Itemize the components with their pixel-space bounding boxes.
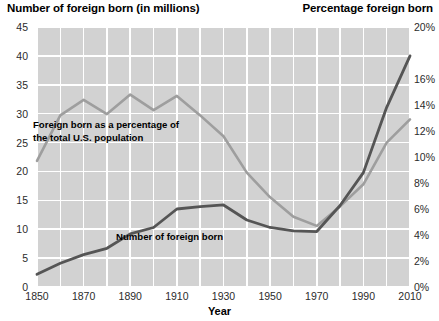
left-axis-tick-label: 25 [0,138,28,149]
number-series-line [37,56,410,274]
right-axis-tick-label: 16% [414,74,439,85]
foreign-born-chart: Number of foreign born (in millions) Per… [0,0,439,321]
right-axis-title: Percentage foreign born [302,2,433,14]
left-axis-tick-label: 15 [0,195,28,206]
x-axis-tick-label: 1930 [204,291,244,302]
x-axis-tick-label: 1950 [250,291,290,302]
right-axis-tick-label: 14% [414,100,439,111]
x-axis-tick-label: 2010 [390,291,430,302]
left-axis-tick-label: 40 [0,51,28,62]
right-axis-tick-label: 8% [414,178,439,189]
right-axis-tick-label: 2% [414,256,439,267]
x-axis-title: Year [0,305,439,317]
left-axis-tick-label: 5 [0,253,28,264]
right-axis-tick-label: 10% [414,152,439,163]
number-series-annotation: Number of foreign born [116,230,223,243]
right-axis-tick-label: 4% [414,230,439,241]
left-axis-tick-label: 35 [0,80,28,91]
right-axis-tick-label: 12% [414,126,439,137]
plot-area [37,27,410,287]
percentage-series-annotation: Foreign born as a percentage of the tota… [33,118,179,144]
left-axis-tick-label: 30 [0,109,28,120]
right-axis-tick-label: 6% [414,204,439,215]
left-axis-title: Number of foreign born (in millions) [7,2,200,14]
x-axis-tick-label: 1850 [17,291,57,302]
left-axis-tick-label: 45 [0,22,28,33]
left-axis-tick-label: 20 [0,166,28,177]
left-axis-tick-label: 10 [0,224,28,235]
x-axis-tick-label: 1910 [157,291,197,302]
percentage-annotation-line2: the total U.S. population [33,131,179,144]
x-axis-tick-label: 1970 [297,291,337,302]
percentage-annotation-line1: Foreign born as a percentage of [33,118,179,131]
x-axis-tick-label: 1890 [110,291,150,302]
x-axis-tick-label: 1990 [343,291,383,302]
right-axis-tick-label: 20% [414,22,439,33]
x-axis-tick-label: 1870 [64,291,104,302]
series-layer [37,27,410,287]
